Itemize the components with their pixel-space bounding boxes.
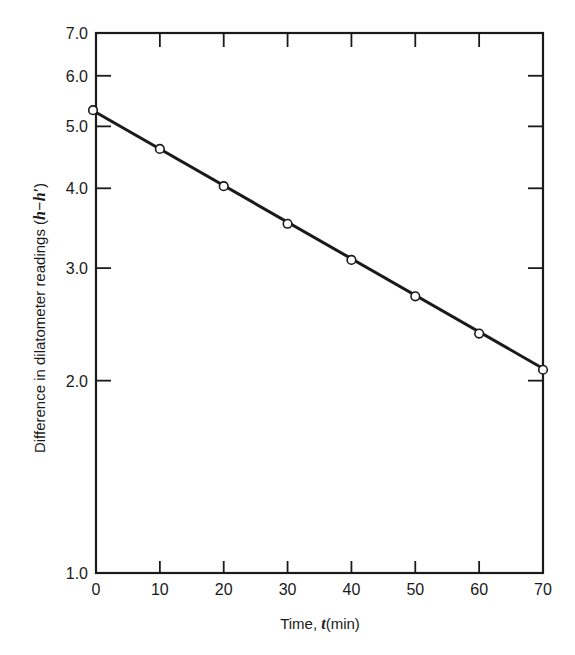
data-point — [156, 145, 165, 154]
x-tick-label: 20 — [215, 581, 233, 598]
x-axis-title: Time, t(min) — [280, 615, 360, 632]
data-point — [347, 256, 356, 265]
plot-frame — [96, 33, 543, 573]
x-tick-label: 50 — [406, 581, 424, 598]
y-tick-label: 3.0 — [66, 260, 88, 277]
x-tick-label: 60 — [470, 581, 488, 598]
data-point — [283, 219, 292, 228]
x-tick-label: 10 — [151, 581, 169, 598]
data-point — [411, 292, 420, 301]
x-tick-label: 40 — [343, 581, 361, 598]
y-tick-label: 2.0 — [66, 373, 88, 390]
y-tick-label: 7.0 — [66, 25, 88, 42]
y-tick-label: 6.0 — [66, 68, 88, 85]
plot-border — [96, 33, 543, 573]
data-point — [539, 365, 548, 374]
x-tick-label: 70 — [534, 581, 552, 598]
x-tick-label: 0 — [92, 581, 101, 598]
data-point — [89, 106, 98, 115]
y-tick-label: 5.0 — [66, 118, 88, 135]
chart: 010203040506070 1.02.03.04.05.06.07.0 Ti… — [0, 0, 575, 655]
y-axis-title: Difference in dilatometer readings (h−h′… — [31, 183, 48, 453]
y-tick-label: 4.0 — [66, 180, 88, 197]
x-axis-ticks: 010203040506070 — [92, 33, 552, 598]
data-point — [219, 182, 228, 191]
y-axis-ticks: 1.02.03.04.05.06.07.0 — [66, 25, 543, 582]
data-point — [475, 329, 484, 338]
y-tick-label: 1.0 — [66, 565, 88, 582]
x-tick-label: 30 — [279, 581, 297, 598]
